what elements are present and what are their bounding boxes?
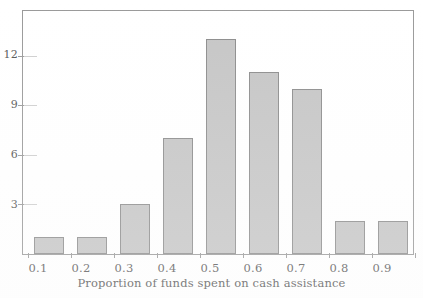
bar-0.8: [335, 221, 365, 254]
x-axis-tick-1: [71, 253, 72, 258]
plot-area: [23, 11, 413, 254]
x-axis-tick-7: [329, 253, 330, 258]
x-axis-label-0.8: 0.8: [319, 262, 359, 274]
y-axis-label-9: 9: [0, 99, 18, 110]
x-axis-label-0.7: 0.7: [276, 262, 316, 274]
y-axis-tick-inner-9: [24, 105, 37, 106]
x-axis-tick-3: [157, 253, 158, 258]
x-axis-tick-6: [286, 253, 287, 258]
plot-frame: [22, 10, 414, 255]
bar-0.1: [34, 237, 64, 254]
x-axis-tick-4: [200, 253, 201, 258]
bar-0.3: [120, 204, 150, 254]
y-axis-tick-inner-12: [24, 56, 37, 57]
bar-0.6: [249, 72, 279, 254]
y-axis-label-6: 6: [0, 149, 18, 160]
bar-0.9: [378, 221, 408, 254]
x-axis-label-0.2: 0.2: [61, 262, 101, 274]
x-axis-tick-5: [243, 253, 244, 258]
x-axis-title: Proportion of funds spent on cash assist…: [0, 277, 423, 290]
y-axis-label-3: 3: [0, 199, 18, 210]
bar-0.5: [206, 39, 236, 254]
bar-0.4: [163, 138, 193, 254]
bar-0.2: [77, 237, 107, 254]
x-axis-label-0.1: 0.1: [18, 262, 58, 274]
y-axis-tick-inner-3: [24, 204, 37, 205]
x-axis-tick-2: [114, 253, 115, 258]
y-axis-label-12: 12: [0, 49, 18, 60]
y-axis-tick-inner-6: [24, 155, 37, 156]
x-axis-label-0.5: 0.5: [190, 262, 230, 274]
x-axis-label-0.6: 0.6: [233, 262, 273, 274]
x-axis-tick-8: [372, 253, 373, 258]
x-axis-tick-0: [28, 253, 29, 258]
bar-0.7: [292, 89, 322, 254]
x-axis-label-0.9: 0.9: [362, 262, 402, 274]
histogram-figure: 12 9 6 3 0.1 0.2 0.3 0.4 0.5 0.6 0.7 0.8…: [0, 0, 423, 298]
x-axis-label-0.4: 0.4: [147, 262, 187, 274]
x-axis-tick-9: [415, 253, 416, 258]
x-axis-label-0.3: 0.3: [104, 262, 144, 274]
